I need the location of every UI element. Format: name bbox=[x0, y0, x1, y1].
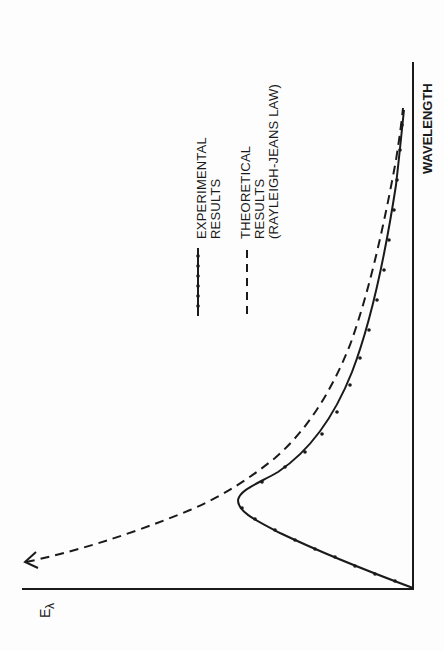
legend-item-experimental: EXPERIMENTAL RESULTS bbox=[194, 137, 223, 316]
y-axis-label-sub: λ bbox=[43, 603, 57, 609]
legend-label-experimental-line2: RESULTS bbox=[208, 178, 223, 239]
legend: EXPERIMENTAL RESULTS THEORETICAL RESULTS… bbox=[194, 84, 281, 316]
y-axis-label: E λ bbox=[37, 603, 57, 618]
legend-label-theoretical-line2: RESULTS bbox=[252, 178, 267, 239]
theoretical-curve bbox=[26, 108, 403, 562]
legend-label-theoretical-line3: (RAYLEIGH-JEANS LAW) bbox=[266, 84, 281, 239]
axes bbox=[22, 62, 414, 589]
blackbody-radiation-chart: WAVELENGTH E λ bbox=[0, 0, 444, 651]
x-axis-label: WAVELENGTH bbox=[420, 83, 435, 174]
legend-item-theoretical: THEORETICAL RESULTS (RAYLEIGH-JEANS LAW) bbox=[238, 84, 281, 316]
legend-label-experimental-line1: EXPERIMENTAL bbox=[194, 137, 209, 239]
legend-label-theoretical-line1: THEORETICAL bbox=[238, 146, 253, 239]
